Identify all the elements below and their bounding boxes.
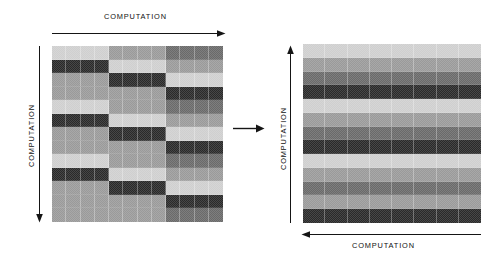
heatmap-cell: [303, 58, 325, 72]
heatmap-cell: [52, 154, 66, 168]
heatmap-cell: [459, 127, 481, 141]
heatmap-cell: [52, 181, 66, 195]
heatmap-cell: [325, 58, 347, 72]
heatmap-cell: [437, 154, 459, 168]
heatmap-cell: [81, 208, 95, 222]
heatmap-cell: [109, 46, 123, 60]
heatmap-cell: [459, 182, 481, 196]
heatmap-cell: [166, 195, 180, 209]
heatmap-cell: [325, 72, 347, 86]
heatmap-cell: [209, 127, 223, 141]
heatmap-cell: [414, 44, 436, 58]
heatmap-cell: [414, 72, 436, 86]
heatmap-cell: [325, 85, 347, 99]
heatmap-cell: [195, 73, 209, 87]
heatmap-cell: [209, 114, 223, 128]
heatmap-cell: [325, 168, 347, 182]
heatmap-cell: [195, 87, 209, 101]
heatmap-cell: [152, 114, 166, 128]
heatmap-cell: [195, 127, 209, 141]
heatmap-cell: [459, 58, 481, 72]
heatmap-cell: [81, 181, 95, 195]
heatmap-cell: [348, 182, 370, 196]
heatmap-cell: [166, 208, 180, 222]
heatmap-cell: [152, 168, 166, 182]
heatmap-cell: [414, 113, 436, 127]
heatmap-cell: [392, 195, 414, 209]
heatmap-cell: [152, 195, 166, 209]
heatmap-cell: [138, 127, 152, 141]
heatmap-cell: [195, 114, 209, 128]
heatmap-cell: [195, 168, 209, 182]
heatmap-cell: [370, 182, 392, 196]
heatmap-cell: [180, 87, 194, 101]
heatmap-cell: [392, 127, 414, 141]
heatmap-cell: [370, 99, 392, 113]
heatmap-cell: [303, 195, 325, 209]
heatmap-cell: [459, 195, 481, 209]
heatmap-cell: [66, 100, 80, 114]
heatmap-cell: [52, 73, 66, 87]
heatmap-cell: [66, 46, 80, 60]
heatmap-cell: [81, 60, 95, 74]
heatmap-cell: [437, 113, 459, 127]
heatmap-cell: [166, 181, 180, 195]
heatmap-cell: [152, 87, 166, 101]
heatmap-cell: [348, 44, 370, 58]
heatmap-cell: [152, 73, 166, 87]
heatmap-cell: [95, 60, 109, 74]
heatmap-cell: [66, 208, 80, 222]
heatmap-cell: [303, 99, 325, 113]
heatmap-cell: [66, 60, 80, 74]
right-matrix-bottom-axis-label: COMPUTATION: [352, 242, 415, 249]
heatmap-cell: [180, 208, 194, 222]
heatmap-cell: [123, 46, 137, 60]
heatmap-cell: [392, 44, 414, 58]
heatmap-cell: [348, 195, 370, 209]
heatmap-cell: [325, 127, 347, 141]
heatmap-cell: [348, 209, 370, 223]
heatmap-cell: [109, 181, 123, 195]
heatmap-cell: [81, 100, 95, 114]
heatmap-cell: [370, 195, 392, 209]
heatmap-cell: [52, 208, 66, 222]
heatmap-cell: [152, 46, 166, 60]
heatmap-cell: [52, 46, 66, 60]
heatmap-cell: [414, 58, 436, 72]
heatmap-cell: [459, 44, 481, 58]
heatmap-cell: [437, 72, 459, 86]
heatmap-cell: [109, 168, 123, 182]
heatmap-cell: [392, 58, 414, 72]
heatmap-cell: [109, 208, 123, 222]
heatmap-cell: [437, 44, 459, 58]
heatmap-cell: [348, 140, 370, 154]
heatmap-cell: [52, 168, 66, 182]
heatmap-cell: [195, 154, 209, 168]
heatmap-cell: [325, 99, 347, 113]
heatmap-cell: [209, 60, 223, 74]
heatmap-cell: [209, 154, 223, 168]
heatmap-cell: [303, 72, 325, 86]
heatmap-cell: [109, 100, 123, 114]
heatmap-cell: [52, 195, 66, 209]
heatmap-cell: [325, 209, 347, 223]
heatmap-cell: [459, 168, 481, 182]
heatmap-cell: [52, 60, 66, 74]
heatmap-cell: [109, 114, 123, 128]
heatmap-cell: [437, 85, 459, 99]
heatmap-cell: [95, 114, 109, 128]
heatmap-cell: [152, 141, 166, 155]
heatmap-cell: [109, 127, 123, 141]
heatmap-cell: [303, 168, 325, 182]
heatmap-cell: [325, 195, 347, 209]
heatmap-cell: [66, 154, 80, 168]
heatmap-cell: [123, 87, 137, 101]
heatmap-cell: [123, 208, 137, 222]
heatmap-cell: [138, 60, 152, 74]
heatmap-cell: [180, 60, 194, 74]
heatmap-cell: [392, 72, 414, 86]
heatmap-cell: [66, 195, 80, 209]
heatmap-cell: [180, 100, 194, 114]
heatmap-cell: [303, 140, 325, 154]
heatmap-cell: [66, 141, 80, 155]
